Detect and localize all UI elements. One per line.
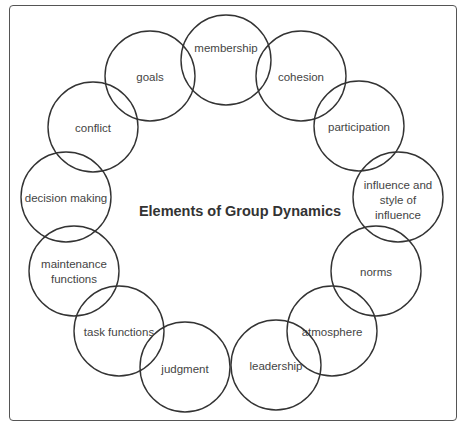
node-task-functions: task functions: [74, 286, 164, 376]
node-label: task functions: [84, 326, 155, 338]
node-decision-making: decision making: [21, 152, 111, 242]
node-label: influence: [375, 209, 421, 221]
node-label: leadership: [249, 360, 302, 372]
node-participation: participation: [314, 81, 404, 171]
node-circle: [29, 226, 119, 316]
node-label: cohesion: [278, 71, 324, 83]
node-label: influence and: [364, 179, 432, 191]
node-cohesion: cohesion: [256, 31, 346, 121]
node-circle: [181, 15, 271, 105]
node-label: goals: [136, 71, 164, 83]
node-label: judgment: [160, 363, 209, 375]
node-label: style of: [380, 194, 417, 206]
node-maintenance-functions: maintenancefunctions: [29, 226, 119, 316]
node-label: decision making: [25, 192, 107, 204]
node-conflict: conflict: [48, 82, 138, 172]
node-norms: norms: [331, 226, 421, 316]
group-dynamics-diagram: membershipcohesionparticipationinfluence…: [0, 0, 465, 430]
node-goals: goals: [105, 31, 195, 121]
node-label: maintenance: [41, 258, 107, 270]
diagram-title: Elements of Group Dynamics: [139, 203, 341, 219]
node-membership: membership: [181, 15, 271, 105]
node-label: conflict: [75, 122, 112, 134]
node-label: norms: [360, 266, 392, 278]
node-influence: influence andstyle ofinfluence: [353, 152, 443, 242]
node-leadership: leadership: [231, 320, 321, 410]
node-label: participation: [328, 121, 390, 133]
node-label: functions: [51, 273, 97, 285]
node-label: membership: [194, 42, 257, 54]
